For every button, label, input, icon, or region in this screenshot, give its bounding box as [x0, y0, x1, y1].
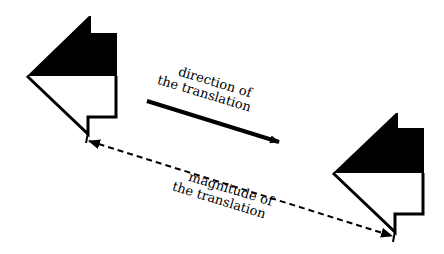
original-figure-stub — [86, 133, 88, 143]
magnitude-label: magnitude of the translation — [171, 165, 276, 222]
translated-figure-outline — [333, 173, 423, 232]
original-figure — [27, 16, 117, 143]
original-figure-black-top — [27, 16, 117, 76]
translation-diagram: direction of the translation magnitude o… — [0, 0, 444, 254]
translated-figure-stub — [393, 231, 395, 242]
original-figure-outline — [27, 76, 116, 134]
translated-figure-black-top — [333, 113, 424, 173]
direction-arrow — [147, 101, 279, 142]
